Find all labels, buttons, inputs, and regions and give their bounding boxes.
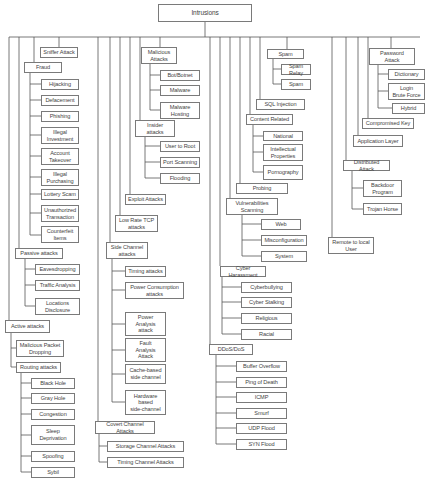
- node-udp-flood: UDP Flood: [236, 423, 287, 434]
- node-system: System: [261, 251, 307, 262]
- node-eavesdropping: Eavesdropping: [35, 264, 80, 275]
- node-racial: Racial: [241, 329, 292, 340]
- node-side-channel: Side Channel attacks: [106, 242, 148, 259]
- node-illegal-investment: Illegal Investment: [41, 127, 79, 144]
- node-compromised-key: Compromised Key: [362, 118, 414, 129]
- node-trojan: Trojan Horse: [363, 203, 402, 215]
- node-root: Intrusions: [158, 4, 252, 22]
- node-vulnerabilities: Vulnerabilities Scanning: [226, 198, 278, 215]
- node-cyber-stalking: Cyber Stalking: [241, 297, 292, 308]
- node-malicious-attacks: Malicious Attacks: [141, 47, 177, 64]
- node-dictionary: Dictionary: [388, 69, 425, 80]
- node-remote-to-local: Remote to local User: [328, 237, 374, 254]
- node-cache-based: Cache-based side channel: [125, 364, 166, 384]
- node-sniffer: Sniffer Attack: [40, 47, 78, 58]
- node-botnet: Bot/Botnet: [160, 70, 200, 81]
- node-pornography: Pornography: [263, 165, 303, 180]
- node-intellectual: Intellectual Properties: [263, 144, 303, 161]
- node-timing-attacks: Timing attacks: [125, 266, 166, 277]
- node-passive: Passive attacks: [15, 248, 63, 259]
- node-national: National: [263, 131, 303, 141]
- node-traffic: Traffic Analysis: [35, 280, 80, 291]
- node-active: Active attacks: [5, 320, 50, 333]
- node-locations: Locations Disclosure: [35, 298, 80, 315]
- node-sql-injection: SQL Injection: [256, 99, 305, 110]
- node-malware-hosting: Malware Hosting: [160, 102, 200, 119]
- node-flooding: Flooding: [160, 173, 200, 184]
- node-web: Web: [261, 219, 301, 230]
- node-lottery-scam: Lottery Scam: [41, 189, 79, 200]
- node-exploit: Exploit Attacks: [125, 194, 166, 205]
- node-malware: Malware: [160, 85, 200, 96]
- node-login-brute: Login Brute Force: [388, 83, 425, 100]
- node-user-to-root: User to Root: [160, 141, 200, 152]
- node-spam-relay: Spam Relay: [281, 64, 311, 75]
- node-account-takeover: Account Takeover: [41, 148, 79, 165]
- node-port-scanning: Port Scanning: [160, 157, 200, 168]
- node-probing: Probing: [236, 183, 288, 194]
- node-routing: Routing attacks: [16, 362, 61, 373]
- node-password: Password Attack: [369, 48, 415, 65]
- node-sybil: Sybil: [31, 467, 75, 478]
- node-religious: Religious: [241, 313, 292, 324]
- node-sleep: Sleep Deprivation: [31, 425, 75, 445]
- node-hybrid: Hybrid: [392, 103, 425, 114]
- node-ddos: DDoS/DoS: [209, 344, 253, 355]
- node-covert: Covert Channel Attacks: [95, 421, 155, 434]
- node-buffer-overflow: Buffer Overflow: [236, 361, 287, 372]
- node-power-analysis: Power Analysis attack: [125, 312, 166, 336]
- node-malicious-packet: Malicious Packet Dropping: [16, 340, 64, 357]
- node-cyber-harassment: Cyber Harassment: [220, 266, 266, 277]
- node-low-rate-tcp: Low Rate TCP attacks: [115, 215, 158, 232]
- node-phishing: Phishing: [41, 111, 79, 122]
- node-congestion: Congestion: [31, 409, 75, 420]
- node-storage-channel: Storage Channel Attacks: [107, 441, 184, 452]
- node-cyberbullying: Cyberbullying: [241, 282, 292, 293]
- node-distributed: Distributed Attack: [343, 160, 390, 171]
- node-unauthorized: Unauthorized Transaction: [41, 205, 79, 222]
- node-misconfiguration: Misconfiguration: [261, 235, 307, 246]
- node-application-layer: Application Layer: [353, 135, 403, 147]
- node-ping-of-death: Ping of Death: [236, 377, 287, 388]
- node-insider: Insider attacks: [135, 120, 175, 137]
- intrusion-taxonomy-diagram: IntrusionsSniffer AttackFraudHijackingDe…: [0, 0, 431, 487]
- node-icmp: ICMP: [236, 392, 287, 403]
- node-counterfeit: Counterfeit Items: [41, 226, 79, 243]
- node-timing-channel: Timing Channel Attacks: [107, 457, 184, 468]
- node-power-consumption: Power Consumption attacks: [125, 282, 184, 299]
- node-spam-child: Spam: [281, 79, 311, 90]
- node-smurf: Smurf: [236, 408, 287, 419]
- node-hardware-based: Hardware based side-channel: [125, 390, 166, 415]
- node-backdoor: Backdoor Program: [363, 180, 402, 197]
- node-hijacking: Hijacking: [41, 79, 79, 90]
- node-syn-flood: SYN Flood: [236, 439, 287, 450]
- node-fault-analysis: Fault Analysis Attack: [125, 338, 166, 362]
- node-fraud: Fraud: [24, 62, 62, 73]
- node-gray-hole: Gray Hole: [31, 393, 75, 404]
- node-illegal-purchasing: Illegal Purchasing: [41, 169, 79, 186]
- node-spoofing: Spoofing: [31, 451, 75, 462]
- node-defacement: Defacement: [41, 95, 79, 106]
- node-spam: Spam: [267, 49, 304, 59]
- node-black-hole: Black Hole: [31, 378, 75, 389]
- node-content-related: Content Related: [246, 114, 293, 125]
